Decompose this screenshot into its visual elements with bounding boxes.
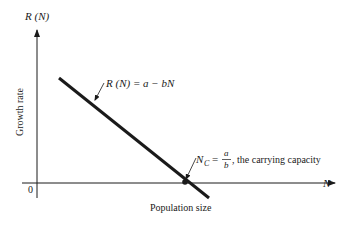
growth-rate-diagram: R (N) Growth rate 0 N Population size R … xyxy=(0,0,341,227)
svg-text:b: b xyxy=(224,160,229,170)
carrying-capacity-point xyxy=(182,179,188,185)
x-axis-label: N xyxy=(322,177,331,189)
svg-text:, the carrying capacity: , the carrying capacity xyxy=(232,154,321,165)
svg-text:=: = xyxy=(212,153,218,165)
carrying-capacity-label: N C = a b , the carrying capacity xyxy=(195,148,321,170)
y-axis-label: R (N) xyxy=(24,10,49,23)
line-equation: R (N) = a − bN xyxy=(105,77,175,90)
x-axis-title: Population size xyxy=(150,202,212,213)
equation-pointer xyxy=(95,83,104,100)
y-axis-title: Growth rate xyxy=(14,87,25,136)
svg-text:C: C xyxy=(204,159,210,168)
svg-text:a: a xyxy=(224,148,229,158)
origin-label: 0 xyxy=(28,184,33,195)
capacity-pointer xyxy=(186,158,196,179)
svg-text:N: N xyxy=(195,153,204,165)
